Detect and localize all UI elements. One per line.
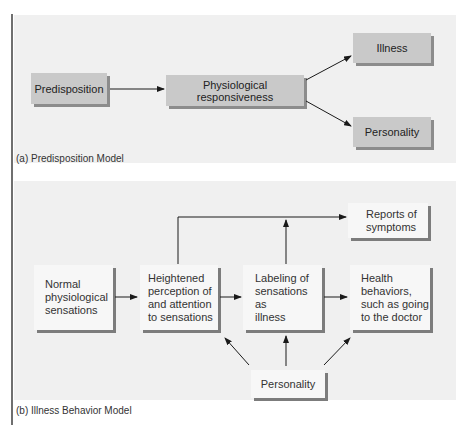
node-labeling-of-sensations: Labeling of sensations as illness xyxy=(243,265,322,330)
node-label: Reports of symptoms xyxy=(366,208,417,234)
node-label: Illness xyxy=(376,42,407,54)
node-health-behaviors: Health behaviors, such as going to the d… xyxy=(350,265,430,330)
node-label: Physiological responsiveness xyxy=(166,79,304,103)
node-label: Heightened perception of and attention t… xyxy=(148,272,213,324)
node-label: Labeling of sensations as illness xyxy=(255,272,322,324)
node-personality-b: Personality xyxy=(251,370,325,398)
node-predisposition: Predisposition xyxy=(31,73,107,104)
node-label: Personality xyxy=(365,126,419,138)
node-label: Personality xyxy=(261,378,315,391)
node-normal-physiological-sensations: Normal physiological sensations xyxy=(34,265,113,330)
caption-b: (b) Illness Behavior Model xyxy=(16,405,132,416)
node-reports-of-symptoms: Reports of symptoms xyxy=(348,203,428,238)
node-label: Predisposition xyxy=(34,83,103,95)
node-heightened-perception: Heightened perception of and attention t… xyxy=(140,265,218,330)
left-margin-rule xyxy=(11,14,13,425)
node-personality-a: Personality xyxy=(353,117,431,147)
node-physiological-responsiveness: Physiological responsiveness xyxy=(166,75,304,106)
node-illness: Illness xyxy=(353,33,431,63)
caption-a: (a) Predisposition Model xyxy=(16,153,124,164)
node-label: Health behaviors, such as going to the d… xyxy=(361,272,429,324)
node-label: Normal physiological sensations xyxy=(45,278,108,317)
